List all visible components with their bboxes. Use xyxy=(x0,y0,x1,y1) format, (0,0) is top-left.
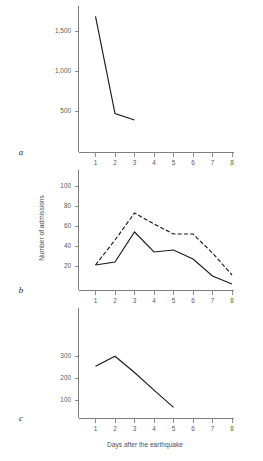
panel-c-ytick-label: 100 xyxy=(60,396,71,403)
panel-a-xtick-label: 1 xyxy=(94,159,98,166)
panel-a-ytick-label: 500 xyxy=(60,107,71,114)
panel-b-x-ticks: 1 2 3 4 5 6 7 8 xyxy=(94,291,235,305)
panel-a-xtick-label: 4 xyxy=(152,159,156,166)
panel-a-ytick-label: 1,500 xyxy=(55,27,71,34)
panel-a-series-line xyxy=(96,16,135,120)
panel-a-xtick-label: 2 xyxy=(113,159,117,166)
panel-a-xtick-label: 5 xyxy=(172,159,176,166)
panel-b-xtick-label: 8 xyxy=(230,297,234,304)
x-axis-title: Days after the earthquake xyxy=(107,441,183,449)
panel-a-xtick-label: 8 xyxy=(230,159,234,166)
panel-c-xtick-label: 7 xyxy=(211,425,215,432)
panel-c-xtick-label: 3 xyxy=(133,425,137,432)
panel-a-xtick-label: 7 xyxy=(211,159,215,166)
panel-b-dashed-series-line xyxy=(96,213,233,275)
panel-b-xtick-label: 6 xyxy=(191,297,195,304)
panel-a-x-ticks: 1 2 3 4 5 6 7 8 xyxy=(94,153,235,167)
panel-a-ytick-label: 1,000 xyxy=(55,67,71,74)
panel-c: 300 200 100 1 2 3 4 5 6 7 8 xyxy=(19,308,234,449)
panel-b-ytick-label: 60 xyxy=(64,222,72,229)
panel-c-xtick-label: 8 xyxy=(230,425,234,432)
panel-c-y-ticks: 300 200 100 xyxy=(60,352,78,403)
figure-container: 1,500 1,000 500 1 2 3 4 5 6 7 8 xyxy=(0,0,263,461)
panel-b-solid-series-line xyxy=(96,232,233,284)
panel-c-xtick-label: 5 xyxy=(172,425,176,432)
panel-c-x-ticks: 1 2 3 4 5 6 7 8 xyxy=(94,419,235,433)
panel-a-label: a xyxy=(19,147,24,157)
panel-c-xtick-label: 4 xyxy=(152,425,156,432)
panel-a-xtick-label: 6 xyxy=(191,159,195,166)
panel-a: 1,500 1,000 500 1 2 3 4 5 6 7 8 xyxy=(19,6,234,166)
panel-b-xtick-label: 3 xyxy=(133,297,137,304)
panel-b-y-ticks: 100 80 60 40 20 xyxy=(60,182,78,269)
panel-b-xtick-label: 1 xyxy=(94,297,98,304)
panel-b-xtick-label: 7 xyxy=(211,297,215,304)
panel-c-label: c xyxy=(19,413,23,423)
panel-c-xtick-label: 6 xyxy=(191,425,195,432)
panel-b-ytick-label: 100 xyxy=(60,182,71,189)
panel-c-xtick-label: 1 xyxy=(94,425,98,432)
panel-b-xtick-label: 4 xyxy=(152,297,156,304)
panel-a-xtick-label: 3 xyxy=(133,159,137,166)
panel-b-xtick-label: 5 xyxy=(172,297,176,304)
panel-b-label: b xyxy=(19,285,24,295)
panel-c-ytick-label: 200 xyxy=(60,374,71,381)
panel-c-series-line xyxy=(96,356,174,407)
panel-c-ytick-label: 300 xyxy=(60,352,71,359)
y-axis-title: Number of admissions xyxy=(38,195,45,261)
panel-a-y-ticks: 1,500 1,000 500 xyxy=(55,27,79,114)
earthquake-admissions-figure: 1,500 1,000 500 1 2 3 4 5 6 7 8 xyxy=(0,0,263,461)
panel-b-ytick-label: 40 xyxy=(64,242,72,249)
panel-c-xtick-label: 2 xyxy=(113,425,117,432)
panel-b: 100 80 60 40 20 1 2 3 4 5 6 xyxy=(19,170,234,304)
panel-b-ytick-label: 20 xyxy=(64,262,72,269)
panel-b-ytick-label: 80 xyxy=(64,202,72,209)
panel-b-xtick-label: 2 xyxy=(113,297,117,304)
